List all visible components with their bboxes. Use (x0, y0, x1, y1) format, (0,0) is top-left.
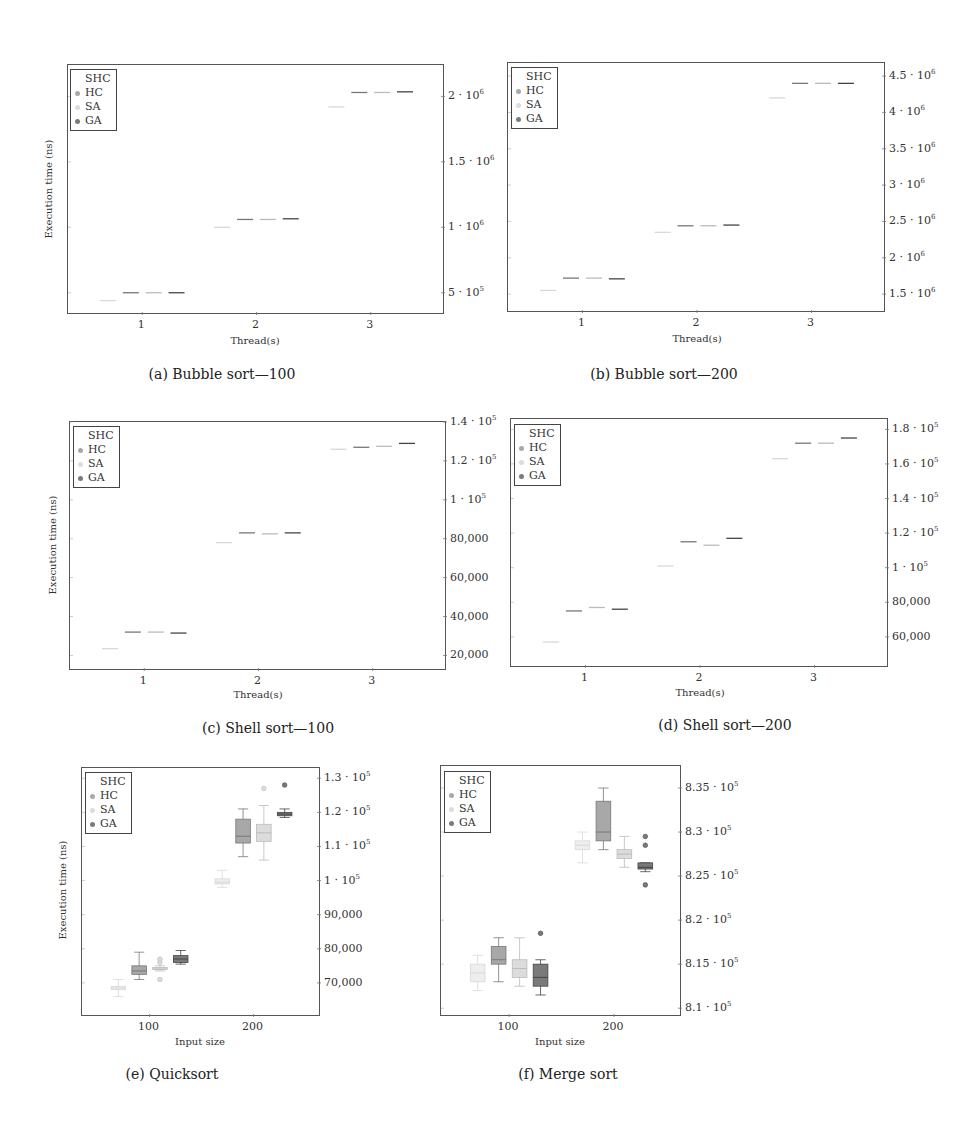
caption-a: (a) Bubble sort—100 (149, 366, 296, 382)
caption-b: (b) Bubble sort—200 (590, 366, 737, 382)
box-sa (512, 938, 527, 986)
legend-title: SHC (75, 72, 111, 86)
y-tick-label: 1 · 105 (324, 873, 360, 887)
y-tick-label: 1.6 · 105 (892, 456, 938, 470)
legend-marker-icon (449, 821, 454, 826)
legend-marker-icon (519, 474, 524, 479)
box-sa (153, 957, 168, 982)
y-tick-label: 90,000 (324, 907, 363, 920)
legend-b: SHCHCSAGA (511, 67, 558, 129)
x-tick-label: 2 (252, 318, 259, 331)
legend-item-ga: GA (516, 112, 552, 126)
y-tick-label: 1.1 · 105 (324, 839, 370, 853)
x-axis-label-e: Input size (175, 1036, 225, 1047)
y-tick-label: 60,000 (450, 570, 489, 583)
y-tick-label: 2 · 106 (448, 89, 484, 103)
legend-marker-icon (75, 119, 80, 124)
y-tick-label: 1 · 106 (448, 219, 484, 233)
x-tick-label: 3 (807, 316, 814, 329)
y-tick-label: 8.3 · 105 (685, 824, 731, 838)
legend-title: SHC (449, 774, 485, 788)
legend-a: SHCHCSAGA (70, 69, 117, 131)
box-hc (132, 952, 147, 979)
plot-svg-a (68, 65, 445, 315)
legend-item-ga: GA (449, 816, 485, 830)
legend-marker-icon (449, 807, 454, 812)
y-tick-label: 1 · 105 (892, 560, 928, 574)
y-tick-label: 80,000 (450, 531, 489, 544)
y-tick-label: 1.4 · 105 (450, 414, 496, 428)
legend-marker-icon (449, 793, 454, 798)
y-tick-label: 40,000 (450, 609, 489, 622)
legend-marker-icon (90, 794, 95, 799)
legend-title: SHC (78, 429, 114, 443)
caption-c: (c) Shell sort—100 (202, 720, 334, 736)
plot-svg-b (508, 63, 886, 313)
y-axis-label-c: Execution time (ns) (47, 496, 58, 595)
x-tick-label: 2 (693, 316, 700, 329)
y-axis-label-a: Execution time (ns) (43, 140, 54, 239)
x-tick-label: 3 (810, 671, 817, 684)
x-tick-label: 2 (696, 671, 703, 684)
box-shc (575, 832, 590, 863)
y-tick-label: 2 · 106 (889, 250, 925, 264)
x-tick-label: 1 (581, 671, 588, 684)
box-shc (111, 979, 126, 996)
box-ga (638, 834, 653, 887)
y-tick-label: 1 · 105 (450, 492, 486, 506)
legend-c: SHCHCSAGA (73, 426, 120, 488)
y-tick-label: 8.25 · 105 (685, 868, 738, 882)
y-tick-label: 1.5 · 106 (889, 286, 935, 300)
legend-title: SHC (519, 427, 555, 441)
y-tick-label: 3 · 106 (889, 177, 925, 191)
box-hc (491, 938, 506, 982)
y-tick-label: 1.2 · 105 (324, 805, 370, 819)
x-tick-label: 200 (602, 1020, 623, 1033)
y-tick-label: 80,000 (892, 595, 931, 608)
y-tick-label: 8.2 · 105 (685, 912, 731, 926)
plot-area-b (507, 62, 885, 312)
legend-item-ga: GA (75, 114, 111, 128)
legend-item-sa: SA (516, 98, 552, 112)
box-shc (215, 870, 230, 887)
y-tick-label: 60,000 (892, 629, 931, 642)
y-tick-label: 4.5 · 106 (889, 68, 935, 82)
legend-marker-icon (78, 448, 83, 453)
y-tick-label: 8.15 · 105 (685, 956, 738, 970)
legend-marker-icon (519, 446, 524, 451)
caption-d: (d) Shell sort—200 (658, 717, 791, 733)
y-tick-label: 8.35 · 105 (685, 780, 738, 794)
x-tick-label: 200 (242, 1020, 263, 1033)
legend-marker-icon (78, 462, 83, 467)
y-axis-label-e: Execution time (ns) (57, 841, 68, 940)
legend-marker-icon (90, 822, 95, 827)
box-ga (533, 931, 548, 995)
y-tick-label: 1.4 · 105 (892, 491, 938, 505)
legend-item-hc: HC (75, 86, 111, 100)
y-tick-label: 8.1 · 105 (685, 1000, 731, 1014)
legend-marker-icon (516, 117, 521, 122)
legend-e: SHCHCSAGA (85, 772, 132, 834)
legend-item-ga: GA (78, 471, 114, 485)
y-tick-label: 4 · 106 (889, 105, 925, 119)
plot-svg-c (70, 422, 447, 671)
x-axis-label-f: Input size (535, 1036, 585, 1047)
legend-item-sa: SA (78, 457, 114, 471)
box-shc (470, 955, 485, 990)
x-axis-label-d: Thread(s) (675, 687, 724, 698)
legend-marker-icon (516, 89, 521, 94)
y-tick-label: 2.5 · 106 (889, 214, 935, 228)
legend-item-sa: SA (75, 100, 111, 114)
caption-f: (f) Merge sort (518, 1066, 618, 1082)
y-tick-label: 70,000 (324, 975, 363, 988)
legend-marker-icon (75, 105, 80, 110)
box-ga (277, 783, 292, 818)
legend-marker-icon (516, 103, 521, 108)
y-tick-label: 5 · 105 (448, 285, 484, 299)
x-tick-label: 1 (138, 318, 145, 331)
legend-title: SHC (90, 775, 126, 789)
box-sa (257, 786, 272, 860)
y-tick-label: 1.5 · 106 (448, 154, 494, 168)
y-tick-label: 3.5 · 106 (889, 141, 935, 155)
legend-f: SHCHCSAGA (444, 771, 491, 833)
